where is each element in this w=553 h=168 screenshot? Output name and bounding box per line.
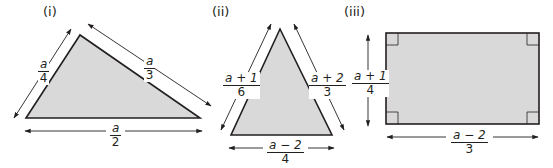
shape-label-ii: (ii) xyxy=(212,4,229,19)
numerator: a + 1 xyxy=(354,69,387,83)
denominator: 3 xyxy=(146,69,154,82)
numerator: a + 1 xyxy=(225,71,258,85)
denominator: 4 xyxy=(282,153,290,166)
numerator: a − 2 xyxy=(453,128,486,142)
rectangle-iii xyxy=(386,33,539,124)
shape-label-iii: (iii) xyxy=(344,4,365,19)
triangle-i xyxy=(26,35,200,118)
side-label-i-bottom: a 2 xyxy=(106,122,125,149)
denominator: 4 xyxy=(367,84,375,97)
side-label-i-left: a 4 xyxy=(38,58,49,85)
denominator: 4 xyxy=(40,72,48,85)
side-label-ii-bottom: a − 2 4 xyxy=(263,139,308,166)
side-label-ii-right: a + 2 3 xyxy=(309,72,346,99)
numerator: a − 2 xyxy=(269,138,302,152)
denominator: 3 xyxy=(466,143,474,156)
side-label-ii-left: a + 1 6 xyxy=(223,72,260,99)
side-label-i-right: a + 1a 3 xyxy=(144,55,155,82)
side-label-iii-left: a + 1 4 xyxy=(352,70,389,97)
denominator: 6 xyxy=(238,86,246,99)
denominator: 3 xyxy=(324,86,332,99)
numerator: a + 2 xyxy=(311,71,344,85)
numerator: a xyxy=(40,57,47,71)
side-label-iii-bottom: a − 2 3 xyxy=(446,129,493,156)
numerator: a xyxy=(146,54,153,68)
numerator: a xyxy=(112,121,119,135)
denominator: 2 xyxy=(112,136,120,149)
shape-label-i: (i) xyxy=(43,4,57,19)
